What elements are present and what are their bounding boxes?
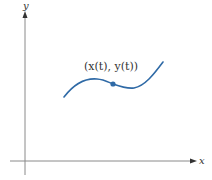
y-axis-label: y bbox=[22, 0, 29, 11]
curve-point-marker bbox=[110, 81, 115, 86]
parametric-curve-diagram: y x (x(t), y(t)) bbox=[0, 0, 212, 180]
x-axis-arrow-icon bbox=[190, 159, 197, 164]
y-axis bbox=[23, 11, 28, 175]
point-label: (x(t), y(t)) bbox=[84, 60, 138, 73]
x-axis-label: x bbox=[199, 155, 205, 166]
x-axis bbox=[10, 159, 197, 164]
diagram-svg: y x (x(t), y(t)) bbox=[0, 0, 212, 180]
y-axis-arrow-icon bbox=[23, 11, 28, 18]
